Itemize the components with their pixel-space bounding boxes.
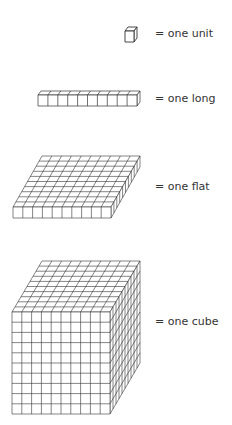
unit-label: = one unit xyxy=(155,27,213,40)
flat-label: = one flat xyxy=(155,180,210,193)
long-rod-icon xyxy=(38,91,140,106)
cube-label: = one cube xyxy=(155,315,218,328)
unit-cube-icon xyxy=(125,27,137,42)
long-label: = one long xyxy=(155,92,215,105)
flat-icon xyxy=(13,156,140,218)
base-ten-blocks-diagram xyxy=(0,0,232,425)
thousand-cube-icon xyxy=(12,261,140,414)
